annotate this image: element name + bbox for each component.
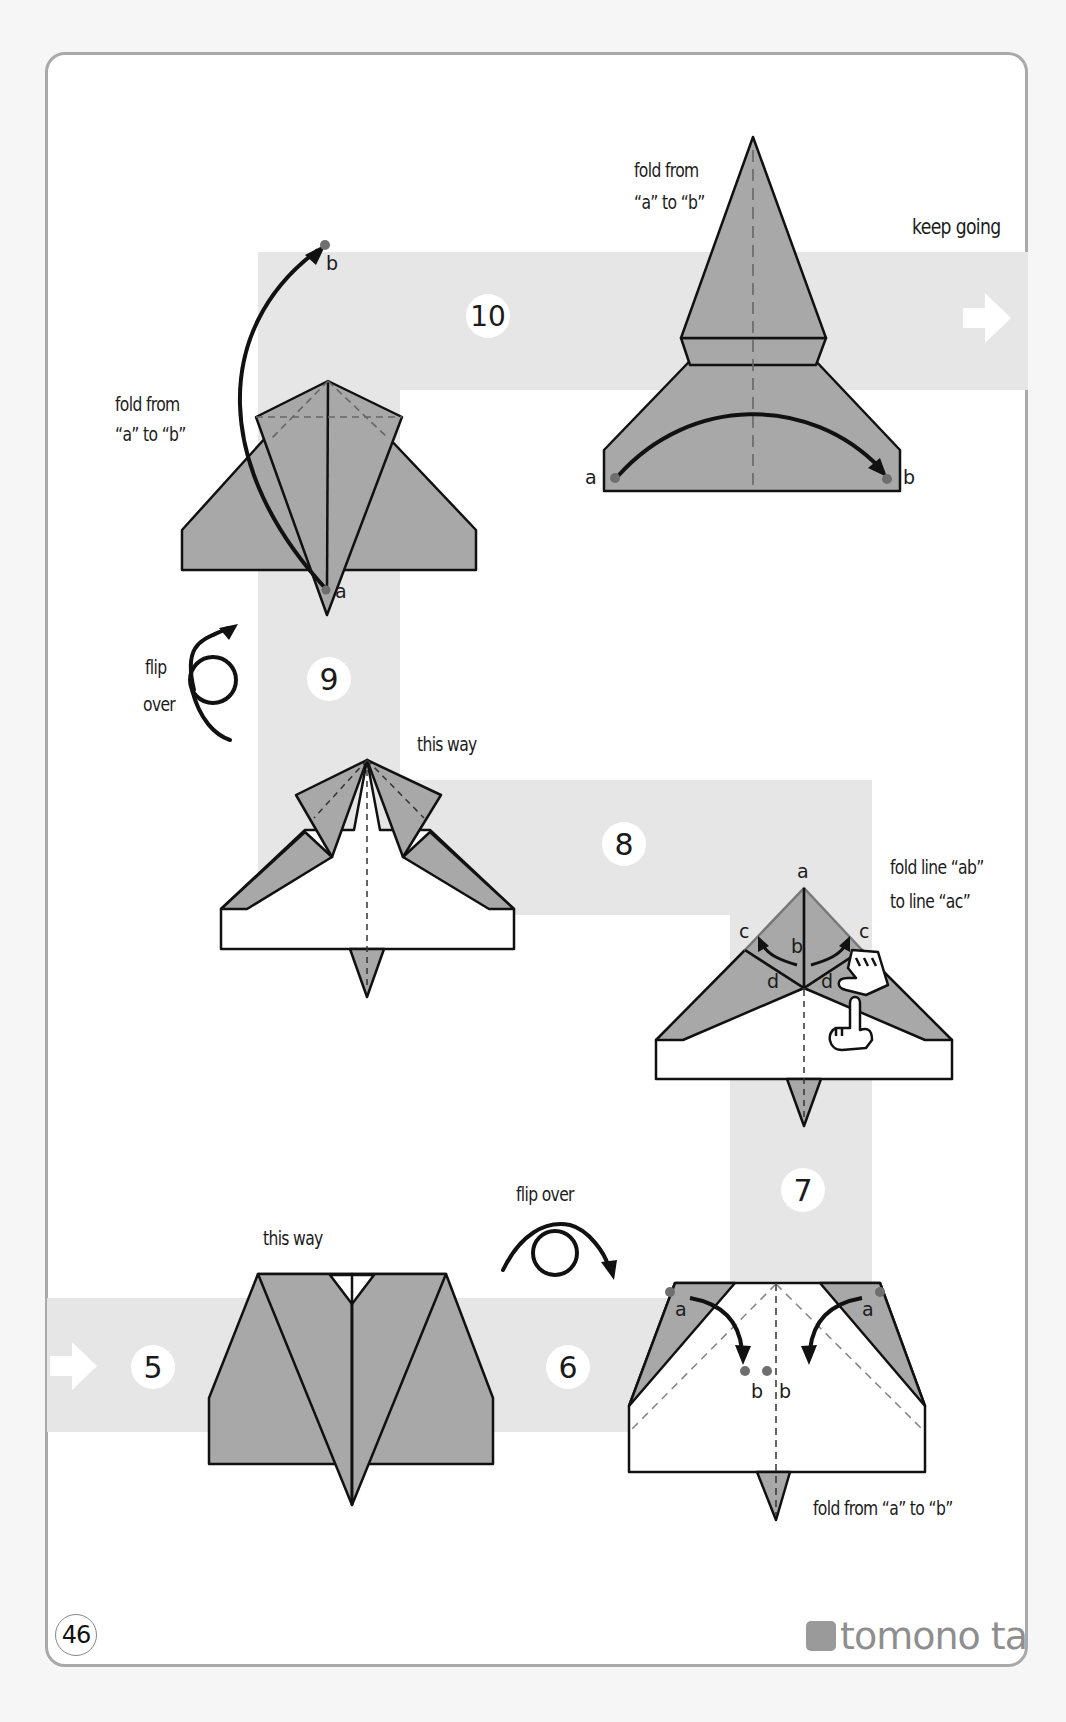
point-label-b: b [326, 252, 338, 274]
step-number-5: 5 [131, 1345, 175, 1389]
flip-over-icon [503, 1224, 617, 1280]
point-label-a: a [862, 1298, 874, 1320]
point-label-a: a [585, 466, 597, 488]
point-label-b: b [751, 1380, 763, 1402]
step9-this-way-label: this way [417, 732, 477, 758]
logo-text: tomono ta [840, 1614, 1027, 1658]
step9-flip-label-line1: flip [145, 655, 166, 681]
step5-this-way-label: this way [263, 1226, 323, 1252]
step-number-7: 7 [781, 1168, 825, 1212]
step8-figure [656, 888, 952, 1126]
step7-figure [629, 1283, 925, 1520]
step-number-8: 8 [602, 822, 646, 866]
step7-instruction: fold from “a” to “b” [813, 1496, 953, 1522]
instruction-page: 10 9 8 7 6 5 fold from “a” to “b” fold f… [0, 0, 1066, 1722]
keep-going-label: keep going [912, 213, 1000, 241]
point-label-b: b [903, 466, 915, 488]
point-label-a: a [797, 860, 809, 882]
step6-flip-label: flip over [516, 1182, 574, 1208]
publisher-logo: tomono ta [806, 1614, 1027, 1658]
point-label-a: a [335, 580, 347, 602]
flip-over-icon [190, 624, 238, 740]
point-label-d: d [821, 970, 833, 992]
step-number-6: 6 [546, 1345, 590, 1389]
step10-right-instruction-line1: fold from [634, 158, 699, 184]
step8-instruction-line2: to line “ac” [890, 889, 970, 915]
step5-figure [209, 1274, 493, 1505]
page-number: 46 [55, 1614, 97, 1656]
point-label-c: c [739, 920, 749, 942]
step9-flip-label-line2: over [143, 692, 175, 718]
point-label-c: c [859, 920, 869, 942]
step10-right-instruction-line2: “a” to “b” [634, 190, 705, 216]
step-number-9: 9 [307, 657, 351, 701]
step10-left-instruction-line1: fold from [115, 392, 180, 418]
step10-left-instruction-line2: “a” to “b” [115, 422, 186, 448]
point-label-a: a [675, 1298, 687, 1320]
point-label-b: b [779, 1380, 791, 1402]
point-label-d: d [767, 970, 779, 992]
logo-icon [806, 1621, 836, 1651]
step8-instruction-line1: fold line “ab” [890, 855, 984, 881]
step-number-10: 10 [466, 294, 510, 338]
point-label-b: b [791, 935, 803, 957]
